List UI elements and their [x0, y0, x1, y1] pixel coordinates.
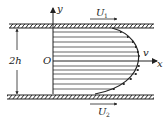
velocity-label: v	[143, 47, 149, 58]
top-plate	[9, 24, 154, 28]
flow-diagram: y x O 2h v U 1 U 2	[0, 0, 165, 123]
bottom-plate-velocity-subscript: 2	[106, 111, 110, 118]
gap-label: 2h	[8, 55, 22, 66]
bottom-plate	[7, 95, 154, 99]
top-plate-velocity-subscript: 1	[104, 12, 108, 19]
x-axis-label: x	[157, 58, 163, 69]
origin-label: O	[43, 55, 51, 66]
y-axis-label: y	[56, 3, 63, 14]
